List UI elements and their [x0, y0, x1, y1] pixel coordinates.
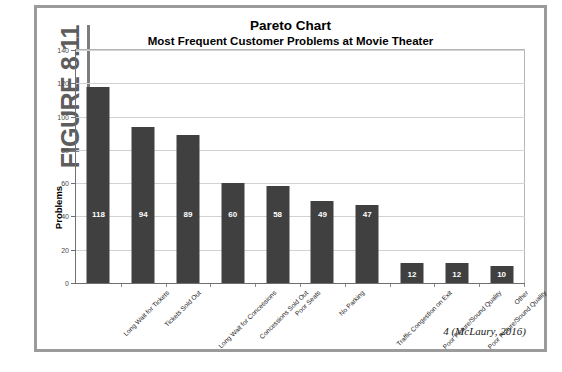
bar[interactable] — [221, 183, 244, 283]
x-axis-category-label: No Parking — [338, 289, 366, 317]
figure-page: FIGURE 8.11 Pareto Chart Most Frequent C… — [0, 0, 562, 372]
bar-slot: 12 — [390, 50, 435, 283]
y-tick-label: 80 — [61, 146, 69, 153]
bar-value-label: 60 — [228, 210, 237, 219]
plot-area: 020406080100120140 118948960584947121210 — [75, 49, 525, 284]
bar[interactable] — [176, 135, 199, 283]
x-axis-labels: Long Wait for TicketsTickets Sold OutLon… — [75, 285, 525, 357]
x-axis-category-label: Long Wait for Concessions — [217, 289, 278, 350]
bar-value-label: 47 — [363, 210, 372, 219]
y-tick-label: 40 — [61, 213, 69, 220]
bar-series: 118948960584947121210 — [76, 50, 525, 283]
y-axis-title: Problems — [51, 90, 65, 325]
y-tick-label: 140 — [57, 47, 69, 54]
x-axis-category-label: Long Wait for Tickets — [122, 289, 170, 337]
y-tick-label: 100 — [57, 113, 69, 120]
bar-slot: 49 — [300, 50, 345, 283]
bar-value-label: 94 — [139, 210, 148, 219]
chart-subtitle: Most Frequent Customer Problems at Movie… — [37, 35, 544, 47]
figure-frame: FIGURE 8.11 Pareto Chart Most Frequent C… — [34, 5, 547, 352]
x-axis-line — [75, 283, 525, 284]
figure-citation: 4 (McLaury, 2016) — [443, 325, 526, 337]
bar[interactable] — [87, 87, 110, 283]
bar-slot: 10 — [479, 50, 524, 283]
bar-value-label: 10 — [497, 270, 506, 279]
bar-slot: 89 — [166, 50, 211, 283]
bar-value-label: 12 — [408, 270, 417, 279]
bar[interactable] — [266, 186, 289, 283]
y-tick-label: 120 — [57, 80, 69, 87]
y-tick-label: 60 — [61, 180, 69, 187]
bar-value-label: 118 — [92, 210, 105, 219]
bar-slot: 118 — [76, 50, 121, 283]
bar-value-label: 89 — [184, 210, 193, 219]
bar[interactable] — [132, 127, 155, 283]
bar-slot: 12 — [434, 50, 479, 283]
x-axis-category-label: Traffic Congestion on Exit — [395, 289, 453, 347]
y-tick-label: 0 — [65, 280, 69, 287]
y-axis-line — [75, 49, 76, 284]
bar-slot: 60 — [210, 50, 255, 283]
y-tick-label: 20 — [61, 246, 69, 253]
bar-value-label: 58 — [273, 210, 282, 219]
chart-title: Pareto Chart — [37, 18, 544, 33]
bar-slot: 47 — [345, 50, 390, 283]
bar-slot: 58 — [255, 50, 300, 283]
bar-slot: 94 — [121, 50, 166, 283]
bar-value-label: 49 — [318, 210, 327, 219]
bar-value-label: 12 — [452, 270, 461, 279]
